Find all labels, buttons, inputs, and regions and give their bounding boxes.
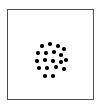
stimulus-card	[0, 0, 102, 108]
dot-marker	[45, 66, 48, 69]
dot-marker	[64, 58, 67, 61]
dot-marker	[48, 42, 51, 45]
dot-marker	[52, 50, 55, 53]
dot-marker	[43, 74, 46, 77]
stimulus-frame	[7, 9, 94, 100]
dot-field	[8, 10, 95, 101]
dot-marker	[62, 47, 65, 50]
dot-marker	[43, 58, 46, 61]
dot-marker	[51, 59, 54, 62]
dot-marker	[59, 53, 62, 56]
dot-marker	[56, 44, 59, 47]
dot-marker	[62, 67, 65, 70]
dot-marker	[37, 66, 40, 69]
dot-marker	[40, 44, 43, 47]
dot-marker	[59, 60, 62, 63]
dot-marker	[51, 74, 54, 77]
dot-marker	[54, 65, 57, 68]
dot-marker	[35, 59, 38, 62]
dot-marker	[44, 51, 47, 54]
dot-marker	[36, 51, 39, 54]
